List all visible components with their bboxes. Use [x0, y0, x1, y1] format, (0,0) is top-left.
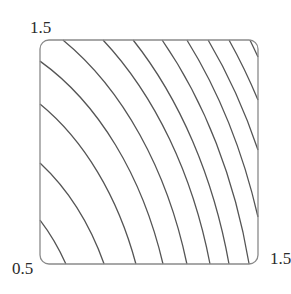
contour-line [40, 104, 136, 264]
contour-line [133, 40, 229, 264]
y-axis-max-label: 1.5 [30, 19, 51, 36]
contour-lines [40, 40, 258, 264]
contour-line [40, 220, 66, 264]
contour-line [250, 40, 258, 57]
x-axis-max-label: 1.5 [270, 250, 291, 267]
contour-plot [0, 0, 291, 294]
axis-origin-label: 0.5 [12, 260, 33, 277]
contour-line [40, 61, 163, 264]
contour-line [40, 163, 104, 264]
